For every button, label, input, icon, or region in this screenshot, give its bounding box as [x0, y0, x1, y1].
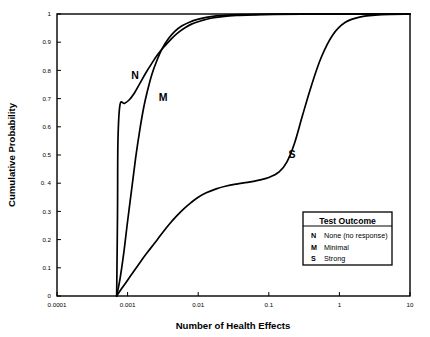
chart-figure: 0.00010.0010.010.1110 00.10.20.30. 40.50… [0, 0, 430, 337]
x-tick-label: 0.001 [120, 301, 136, 308]
legend-label-s: Strong [324, 254, 345, 263]
legend-key-n: N [311, 231, 316, 240]
x-tick-label: 0.0001 [48, 301, 67, 308]
y-tick-label: 0.3 [42, 208, 51, 215]
curve-annotation-s: S [288, 148, 295, 160]
y-tick-label: 0. 4 [41, 179, 52, 186]
legend-title: Test Outcome [319, 216, 376, 226]
y-tick-label: 0.5 [42, 151, 51, 158]
legend-label-m: Minimal [324, 243, 349, 252]
curve-annotation-n: N [131, 69, 139, 81]
y-tick-label: 0.2 [42, 236, 51, 243]
legend: Test Outcome N None (no response) M Mini… [303, 212, 392, 265]
legend-label-n: None (no response) [324, 231, 388, 240]
curve-annotation-m: M [159, 91, 168, 103]
x-axis-title: Number of Health Effects [176, 320, 291, 331]
x-tick-label: 10 [407, 301, 414, 308]
legend-key-m: M [311, 243, 317, 252]
x-axis-tick-labels: 0.00010.0010.010.1110 [48, 301, 414, 308]
curve-annotations: NMS [131, 69, 295, 160]
y-tick-label: 1 [48, 10, 52, 17]
y-tick-label: 0.9 [42, 38, 51, 45]
y-tick-label: 0.7 [42, 95, 51, 102]
y-axis-title: Cumulative Probability [6, 102, 17, 207]
x-tick-label: 0.01 [192, 301, 205, 308]
y-tick-label: 0.8 [42, 67, 51, 74]
y-tick-label: 0 [48, 292, 52, 299]
chart-canvas: 0.00010.0010.010.1110 00.10.20.30. 40.50… [0, 0, 430, 337]
y-axis-tick-labels: 00.10.20.30. 40.50.60.70.80.91 [41, 10, 52, 299]
x-tick-label: 1 [338, 301, 342, 308]
y-tick-label: 0.6 [42, 123, 51, 130]
x-tick-label: 0.1 [264, 301, 273, 308]
y-tick-label: 0.1 [42, 264, 51, 271]
legend-key-s: S [311, 254, 316, 263]
